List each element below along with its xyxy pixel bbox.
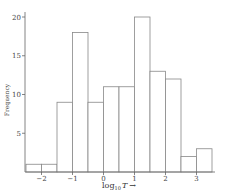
histogram-bar	[73, 33, 89, 173]
x-tick-label: 3	[194, 175, 198, 183]
x-tick-label: −1	[67, 175, 77, 183]
x-axis-title: log10T→	[102, 181, 136, 191]
y-tick-label: 5	[17, 130, 21, 138]
histogram-bar	[181, 157, 197, 173]
y-axis-title: Frequency	[3, 83, 11, 116]
x-tick-label: −2	[36, 175, 46, 183]
histogram-chart: 5101520 −2−10123 Frequency log10T→	[0, 0, 226, 195]
histogram-bar	[150, 71, 166, 172]
y-tick-label: 20	[12, 14, 21, 22]
histogram-bar	[166, 79, 182, 172]
histogram-bar	[57, 102, 73, 172]
histogram-bar	[88, 102, 104, 172]
histogram-bar	[26, 164, 42, 172]
y-tick-label: 10	[12, 91, 21, 99]
histogram-bar	[104, 87, 120, 172]
y-tick-label: 15	[12, 52, 21, 60]
histogram-bar	[42, 164, 58, 172]
histogram-bar	[135, 17, 151, 172]
histogram-bar	[197, 149, 213, 172]
histogram-bars	[26, 17, 212, 172]
histogram-bar	[119, 87, 135, 172]
x-tick-label: 2	[163, 175, 167, 183]
x-axis-ticks: −2−10123	[36, 172, 198, 183]
y-axis-ticks: 5101520	[12, 14, 25, 138]
